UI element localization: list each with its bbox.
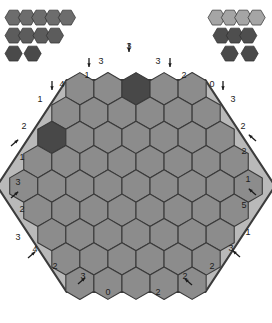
clue-top-3: 1 bbox=[84, 70, 89, 80]
tray-piece-R4[interactable] bbox=[241, 46, 258, 61]
clue-top-8: 3 bbox=[230, 94, 235, 104]
arrow-right-5 bbox=[233, 251, 240, 257]
arrow-top-6-head bbox=[221, 86, 224, 90]
arrow-right-1 bbox=[249, 135, 256, 141]
clue-left-3: 2 bbox=[19, 204, 24, 214]
clue-left-4: 3 bbox=[15, 232, 20, 242]
arrow-top-5 bbox=[50, 81, 53, 90]
tray-piece-R1[interactable] bbox=[208, 10, 265, 25]
clue-left-0: 2 bbox=[21, 121, 26, 131]
clue-right-4: 1 bbox=[245, 227, 250, 237]
arrow-top-6 bbox=[221, 81, 224, 90]
tray-piece-R2[interactable] bbox=[213, 28, 257, 43]
tray-hex[interactable] bbox=[24, 46, 41, 61]
right-piece-tray bbox=[208, 10, 265, 61]
left-piece-tray bbox=[5, 10, 76, 61]
clue-right-5: 3 bbox=[228, 243, 233, 253]
clue-right-6: 2 bbox=[209, 261, 214, 271]
clue-left-1: 1 bbox=[19, 152, 24, 162]
tray-hex[interactable] bbox=[58, 10, 75, 25]
tray-hex[interactable] bbox=[240, 28, 257, 43]
puzzle-stage: 333124013213234230221513222 bbox=[0, 0, 272, 323]
clue-left-2: 3 bbox=[15, 177, 20, 187]
tray-hex[interactable] bbox=[5, 46, 22, 61]
tray-hex[interactable] bbox=[248, 10, 265, 25]
tray-piece-R3[interactable] bbox=[221, 46, 238, 61]
arrow-top-1-head bbox=[87, 63, 90, 67]
clue-top-7: 1 bbox=[37, 94, 42, 104]
tray-piece-L1[interactable] bbox=[5, 10, 76, 25]
arrow-top-2-head bbox=[168, 63, 171, 67]
arrow-top-1 bbox=[87, 58, 90, 67]
clue-right-3: 5 bbox=[241, 200, 246, 210]
clue-right-0: 2 bbox=[240, 121, 245, 131]
tray-hex[interactable] bbox=[241, 46, 258, 61]
clue-right-8: 2 bbox=[155, 287, 160, 297]
clue-left-6: 2 bbox=[52, 261, 57, 271]
tray-hex[interactable] bbox=[221, 46, 238, 61]
clue-right-2: 1 bbox=[245, 174, 250, 184]
arrow-top-5-head bbox=[50, 86, 53, 90]
clue-top-6: 0 bbox=[209, 79, 214, 89]
clue-top-1: 3 bbox=[98, 56, 103, 66]
clue-right-1: 2 bbox=[241, 146, 246, 156]
tray-piece-L2[interactable] bbox=[5, 28, 36, 43]
clue-top-2: 3 bbox=[155, 56, 160, 66]
tray-hex[interactable] bbox=[46, 28, 63, 43]
clue-top-5: 4 bbox=[59, 79, 64, 89]
clue-left-8: 0 bbox=[105, 287, 110, 297]
arrow-left-1 bbox=[11, 140, 18, 146]
clue-top-4: 2 bbox=[181, 70, 186, 80]
puzzle-svg[interactable]: 333124013213234230221513222 bbox=[0, 0, 272, 323]
arrow-top-2 bbox=[168, 58, 171, 67]
board-cells bbox=[10, 73, 263, 300]
tray-piece-L4[interactable] bbox=[5, 46, 22, 61]
tray-piece-L5[interactable] bbox=[24, 46, 41, 61]
tray-piece-L3[interactable] bbox=[33, 28, 64, 43]
